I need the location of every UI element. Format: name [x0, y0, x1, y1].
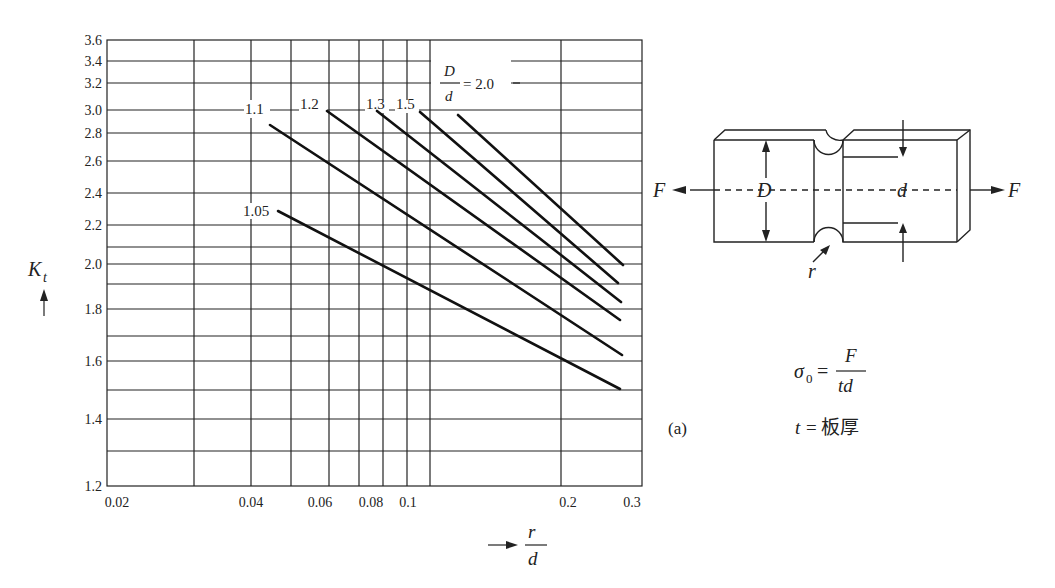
- svg-text:0.08: 0.08: [359, 495, 384, 510]
- specimen-diagram: [690, 120, 993, 262]
- svg-text:1.8: 1.8: [85, 302, 103, 317]
- force-right-label: F: [1007, 179, 1021, 201]
- svg-text:2.4: 2.4: [85, 186, 103, 201]
- svg-text:= 2.0: = 2.0: [463, 76, 494, 92]
- svg-text:D: D: [443, 63, 455, 79]
- svg-text:d: d: [528, 548, 538, 569]
- figure-label: (a): [668, 419, 687, 438]
- svg-text:0.3: 0.3: [623, 495, 641, 510]
- svg-text:3.6: 3.6: [85, 33, 103, 48]
- svg-text:0.2: 0.2: [559, 495, 577, 510]
- radius-label: r: [808, 260, 816, 282]
- svg-text:2.2: 2.2: [85, 218, 103, 233]
- curves: [270, 111, 623, 389]
- curve-label-1.05: 1.05: [243, 203, 269, 219]
- diagram-arrowheads: [672, 140, 1005, 255]
- curve-1.2: [327, 111, 620, 320]
- svg-text:t: t: [43, 270, 48, 285]
- dim-D-label: D: [756, 179, 772, 201]
- svg-text:2.6: 2.6: [85, 154, 103, 169]
- svg-text:=: =: [817, 360, 828, 382]
- curve-label-1.2: 1.2: [300, 96, 319, 112]
- x-axis-ticks: 0.02 0.04 0.06 0.08 0.1 0.2 0.3: [105, 495, 641, 510]
- svg-text:t: t: [795, 417, 801, 438]
- svg-text:2.8: 2.8: [85, 126, 103, 141]
- curve-label-1.1: 1.1: [245, 101, 264, 117]
- svg-text:1.2: 1.2: [85, 479, 103, 494]
- dim-d-label: d: [897, 179, 908, 201]
- svg-text:0: 0: [806, 371, 813, 386]
- svg-text:r: r: [528, 521, 536, 542]
- svg-text:td: td: [838, 375, 853, 396]
- svg-text:3.2: 3.2: [85, 76, 103, 91]
- svg-text:1.4: 1.4: [85, 412, 103, 427]
- svg-text:1.6: 1.6: [85, 354, 103, 369]
- curve-2.0: [458, 115, 623, 265]
- curve-label-1.3: 1.3: [366, 96, 385, 112]
- svg-text:= 板厚: = 板厚: [806, 417, 859, 438]
- svg-text:0.02: 0.02: [105, 495, 130, 510]
- svg-text:0.04: 0.04: [239, 495, 264, 510]
- svg-text:K: K: [27, 258, 43, 280]
- y-axis-title: K t: [27, 258, 48, 316]
- y-axis-ticks: 3.6 3.4 3.2 3.0 2.8 2.6 2.4 2.2 2.0 1.8 …: [85, 33, 103, 494]
- chart-figure: 1.1 1.2 1.3 1.5 1.05 D d = 2.0 3.6 3.4 3…: [0, 0, 1055, 588]
- nominal-stress-formula: σ 0 = F td: [794, 345, 866, 396]
- svg-text:F: F: [844, 345, 857, 366]
- svg-text:2.0: 2.0: [85, 257, 103, 272]
- force-left-label: F: [652, 179, 666, 201]
- svg-text:σ: σ: [794, 360, 805, 382]
- x-axis-title: r d: [488, 521, 547, 569]
- thickness-definition: t = 板厚: [795, 417, 859, 438]
- curve-label-1.5: 1.5: [396, 96, 415, 112]
- svg-text:3.0: 3.0: [85, 103, 103, 118]
- svg-text:0.06: 0.06: [308, 495, 333, 510]
- svg-text:0.1: 0.1: [399, 495, 417, 510]
- svg-text:3.4: 3.4: [85, 54, 103, 69]
- svg-text:d: d: [445, 88, 453, 104]
